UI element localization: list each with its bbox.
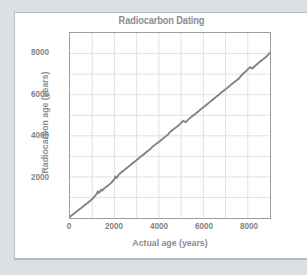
x-tick-label: 2000	[105, 222, 123, 231]
x-axis-title: Actual age (years)	[77, 237, 263, 248]
page-root: Radiocarbon Dating 2000400060008000 0200…	[0, 0, 307, 275]
x-tick-label: 4000	[150, 222, 168, 231]
chart-figure: Radiocarbon Dating 2000400060008000 0200…	[15, 13, 307, 259]
y-axis-title: Radiocarbon age (years)	[39, 35, 50, 210]
plot-area	[69, 32, 271, 219]
x-tick-label: 0	[67, 222, 72, 231]
chart-card: Radiocarbon Dating 2000400060008000 0200…	[14, 12, 307, 258]
plot-svg	[70, 33, 270, 218]
x-tick-label: 8000	[240, 222, 258, 231]
chart-title: Radiocarbon Dating	[27, 15, 297, 26]
x-tick-label: 6000	[195, 222, 213, 231]
data-series-layer	[70, 53, 270, 217]
card-bottom-edge	[14, 258, 307, 260]
data-series-line-0	[70, 53, 270, 217]
